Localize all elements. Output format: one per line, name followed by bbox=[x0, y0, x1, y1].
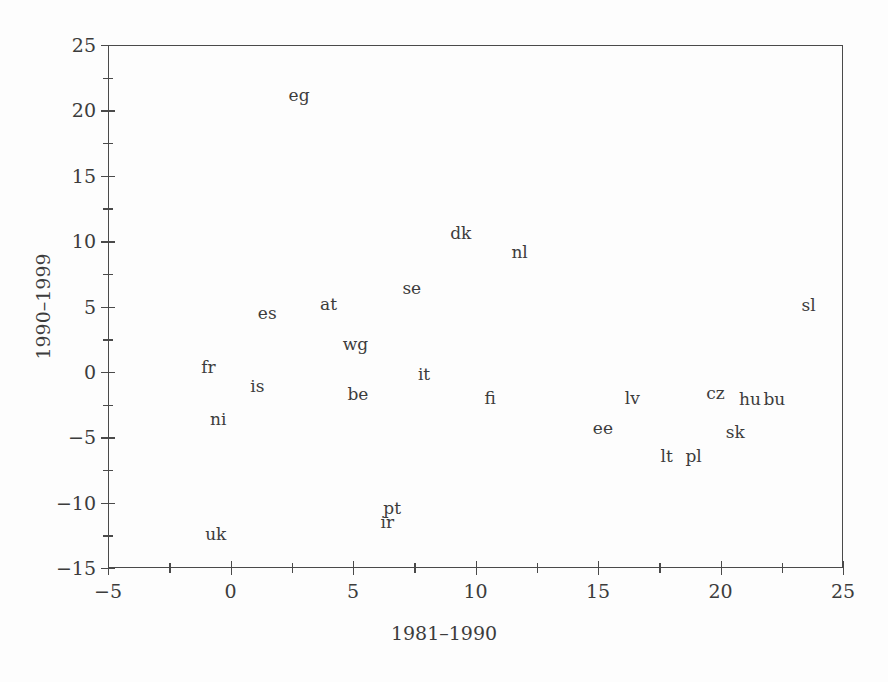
x-tick-label: 5 bbox=[347, 582, 359, 601]
x-tick-minor bbox=[414, 563, 415, 573]
x-tick-major bbox=[843, 561, 844, 575]
data-point-at: at bbox=[320, 295, 337, 312]
x-tick-major bbox=[353, 561, 354, 575]
x-tick-minor bbox=[292, 563, 293, 573]
x-tick-label: 0 bbox=[224, 582, 236, 601]
y-tick-minor bbox=[103, 274, 113, 275]
data-point-fi: fi bbox=[485, 390, 496, 407]
data-point-hu: hu bbox=[739, 391, 761, 408]
data-point-ir: ir bbox=[381, 514, 395, 531]
data-point-wg: wg bbox=[343, 336, 368, 353]
data-point-lt: lt bbox=[660, 447, 672, 464]
y-tick-label: −5 bbox=[68, 428, 96, 447]
data-point-uk: uk bbox=[205, 526, 226, 543]
x-tick-major bbox=[721, 561, 722, 575]
data-point-sk: sk bbox=[726, 424, 745, 441]
data-point-sl: sl bbox=[802, 297, 816, 314]
x-tick-major bbox=[476, 561, 477, 575]
y-tick-minor bbox=[103, 405, 113, 406]
y-tick-minor bbox=[103, 78, 113, 79]
x-tick-label: 15 bbox=[586, 582, 610, 601]
x-tick-major bbox=[231, 561, 232, 575]
y-tick-label: 10 bbox=[72, 232, 96, 251]
scatter-plot-figure: −15−10−50510152025 −50510152025 egdknlse… bbox=[0, 0, 888, 682]
data-point-es: es bbox=[258, 305, 277, 322]
data-point-bu: bu bbox=[763, 391, 785, 408]
y-tick-label: 0 bbox=[84, 362, 96, 381]
x-axis-title: 1981–1990 bbox=[0, 622, 888, 644]
x-tick-major bbox=[598, 561, 599, 575]
x-tick-minor bbox=[782, 563, 783, 573]
plot-area: −15−10−50510152025 −50510152025 egdknlse… bbox=[108, 45, 843, 568]
x-tick-minor bbox=[659, 563, 660, 573]
data-point-dk: dk bbox=[450, 225, 471, 242]
y-tick-minor bbox=[103, 208, 113, 209]
data-point-fr: fr bbox=[201, 358, 215, 375]
y-tick-major bbox=[101, 307, 115, 308]
y-tick-major bbox=[101, 503, 115, 504]
data-point-pl: pl bbox=[685, 447, 701, 464]
y-tick-label: 25 bbox=[72, 36, 96, 55]
y-tick-major bbox=[101, 45, 115, 46]
data-point-it: it bbox=[418, 366, 430, 383]
y-tick-label: 15 bbox=[72, 166, 96, 185]
x-tick-minor bbox=[169, 563, 170, 573]
y-tick-major bbox=[101, 241, 115, 242]
data-point-ee: ee bbox=[593, 420, 613, 437]
y-tick-major bbox=[101, 437, 115, 438]
x-tick-label: 10 bbox=[463, 582, 487, 601]
x-tick-label: 20 bbox=[708, 582, 732, 601]
y-axis-title: 1990–1999 bbox=[28, 45, 58, 568]
data-point-nl: nl bbox=[511, 243, 527, 260]
y-tick-label: −10 bbox=[56, 493, 96, 512]
y-tick-minor bbox=[103, 339, 113, 340]
data-point-is: is bbox=[250, 378, 264, 395]
data-point-se: se bbox=[402, 280, 421, 297]
y-tick-label: −15 bbox=[56, 559, 96, 578]
y-tick-label: 20 bbox=[72, 101, 96, 120]
data-point-be: be bbox=[347, 386, 368, 403]
x-tick-major bbox=[108, 561, 109, 575]
y-tick-minor bbox=[103, 143, 113, 144]
data-point-ni: ni bbox=[210, 410, 226, 427]
y-tick-major bbox=[101, 372, 115, 373]
y-tick-minor bbox=[103, 470, 113, 471]
data-point-lv: lv bbox=[625, 390, 640, 407]
data-point-cz: cz bbox=[706, 384, 724, 401]
y-tick-major bbox=[101, 110, 115, 111]
data-point-eg: eg bbox=[289, 86, 310, 103]
y-tick-major bbox=[101, 176, 115, 177]
x-tick-minor bbox=[537, 563, 538, 573]
y-tick-label: 5 bbox=[84, 297, 96, 316]
x-tick-label: 25 bbox=[831, 582, 855, 601]
y-tick-minor bbox=[103, 535, 113, 536]
x-tick-label: −5 bbox=[94, 582, 122, 601]
